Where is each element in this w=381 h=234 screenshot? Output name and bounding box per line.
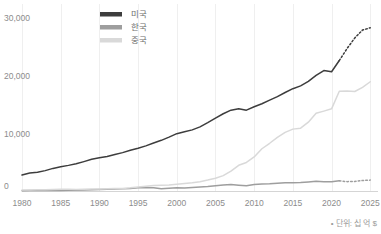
- legend-swatch-미국: [100, 12, 122, 17]
- footnote-text: • 단위: 십 억 $: [331, 218, 378, 228]
- y-tick-label-10000: 10,000: [4, 129, 30, 139]
- y-tick-label-0: 0: [4, 181, 9, 191]
- y-tick-label-20000: 20,000: [4, 71, 30, 81]
- legend-label-중국: 중국: [131, 35, 147, 45]
- x-tick-label-2015: 2015: [283, 198, 302, 208]
- y-tick-label-30000: 30,000: [4, 13, 30, 23]
- x-tick-label-2010: 2010: [245, 198, 264, 208]
- x-tick-label-2000: 2000: [167, 198, 186, 208]
- legend-swatch-중국: [100, 38, 122, 43]
- x-tick-label-2020: 2020: [322, 198, 341, 208]
- chart-canvas: 30,000 20,000 10,000 0 19801985199019952…: [0, 0, 381, 234]
- x-axis-labels: 1980198519901995200020052010201520202025: [13, 198, 380, 208]
- legend-swatch-한국: [100, 25, 122, 30]
- y-axis-labels: 30,000 20,000 10,000 0: [4, 13, 30, 191]
- x-tick-label-2005: 2005: [206, 198, 225, 208]
- gridlines-group: [23, 4, 371, 191]
- x-tick-label-2025: 2025: [361, 198, 380, 208]
- series-group: [22, 28, 370, 191]
- line-chart: 30,000 20,000 10,000 0 19801985199019952…: [0, 0, 381, 234]
- series-line-중국: [22, 82, 370, 190]
- series-projection-한국: [339, 180, 370, 182]
- x-tick-label-1985: 1985: [51, 198, 70, 208]
- series-line-미국: [22, 61, 339, 175]
- legend-label-한국: 한국: [131, 22, 147, 32]
- series-projection-미국: [339, 28, 370, 61]
- x-tick-label-1980: 1980: [13, 198, 32, 208]
- chart-legend: 미국한국중국: [100, 9, 147, 45]
- x-tick-label-1990: 1990: [90, 198, 109, 208]
- x-tick-label-1995: 1995: [129, 198, 148, 208]
- legend-label-미국: 미국: [131, 9, 147, 19]
